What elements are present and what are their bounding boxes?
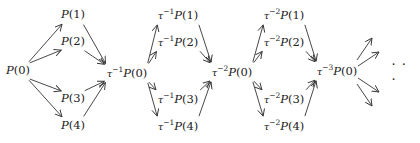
arrow-P2-to-t1P0 (84, 51, 104, 65)
arrow-t1P4-to-t2P0 (199, 82, 211, 116)
node-t2P4: τ−2P(4) (264, 119, 305, 133)
continuation-ellipsis: · · · (392, 57, 411, 87)
arrow-open-3 (357, 84, 372, 106)
arrow-t1P0-to-t1P4 (148, 83, 157, 116)
arrow-t2P4-to-t3P0 (305, 81, 316, 116)
module-index: (4) (182, 119, 198, 133)
module-index: (1) (288, 8, 304, 22)
module-index: (2) (182, 35, 198, 49)
tau-exponent: −2 (269, 34, 280, 43)
ar-quiver-diagram: P(0)P(1)P(2)P(3)P(4)τ−1P(0)τ−1P(1)τ−1P(2… (0, 0, 420, 143)
tau-exponent: −2 (217, 64, 228, 73)
arrow-P0-to-P3 (30, 79, 61, 91)
tau-exponent: −1 (163, 7, 174, 16)
module-index: (4) (288, 119, 304, 133)
module-index: (0) (131, 66, 147, 80)
node-t1P2: τ−1P(2) (158, 35, 199, 49)
module-index: (0) (236, 65, 252, 79)
module-index: (2) (288, 35, 304, 49)
module-index: (1) (69, 7, 85, 21)
arrow-t1P0-to-t1P3 (149, 82, 156, 90)
module-index: (2) (69, 34, 85, 48)
node-P2: P(2) (61, 36, 85, 48)
node-P3: P(3) (61, 93, 85, 105)
node-t3P0: τ−3P(0) (317, 64, 358, 78)
arrow-t2P0-to-t2P4 (253, 82, 263, 116)
tau-exponent: −1 (163, 34, 174, 43)
node-t2P1: τ−2P(1) (264, 8, 305, 22)
arrow-open-0 (357, 38, 372, 60)
node-P4: P(4) (61, 120, 85, 132)
arrow-P0-to-P2 (30, 50, 61, 63)
module-index: (0) (14, 63, 30, 77)
module-index: (0) (341, 64, 357, 78)
module-symbol: P (6, 63, 14, 77)
module-symbol: P (61, 91, 69, 105)
node-P0: P(0) (6, 65, 30, 77)
module-symbol: P (61, 34, 69, 48)
arrow-t2P1-to-t3P0 (305, 25, 316, 61)
node-t2P0: τ−2P(0) (212, 65, 253, 79)
arrow-P0-to-P4 (29, 80, 62, 117)
module-symbol: P (61, 7, 69, 21)
module-index: (3) (288, 92, 304, 106)
node-t1P1: τ−1P(1) (158, 8, 199, 22)
module-index: (1) (182, 8, 198, 22)
node-P1: P(1) (61, 9, 85, 21)
node-t1P3: τ−1P(3) (158, 92, 199, 106)
tau-exponent: −1 (163, 91, 174, 100)
node-t1P4: τ−1P(4) (158, 119, 199, 133)
node-t2P3: τ−2P(3) (264, 92, 305, 106)
module-index: (3) (182, 92, 198, 106)
tau-exponent: −1 (112, 65, 123, 74)
module-symbol: P (61, 118, 69, 132)
tau-exponent: −2 (269, 91, 280, 100)
arrow-P4-to-t1P0 (84, 83, 106, 117)
tau-exponent: −2 (269, 118, 280, 127)
module-index: (3) (69, 91, 85, 105)
tau-exponent: −3 (322, 63, 333, 72)
node-t2P2: τ−2P(2) (264, 35, 305, 49)
module-index: (4) (69, 118, 85, 132)
tau-exponent: −2 (269, 7, 280, 16)
tau-exponent: −1 (163, 118, 174, 127)
node-t1P0: τ−1P(0) (107, 66, 148, 80)
